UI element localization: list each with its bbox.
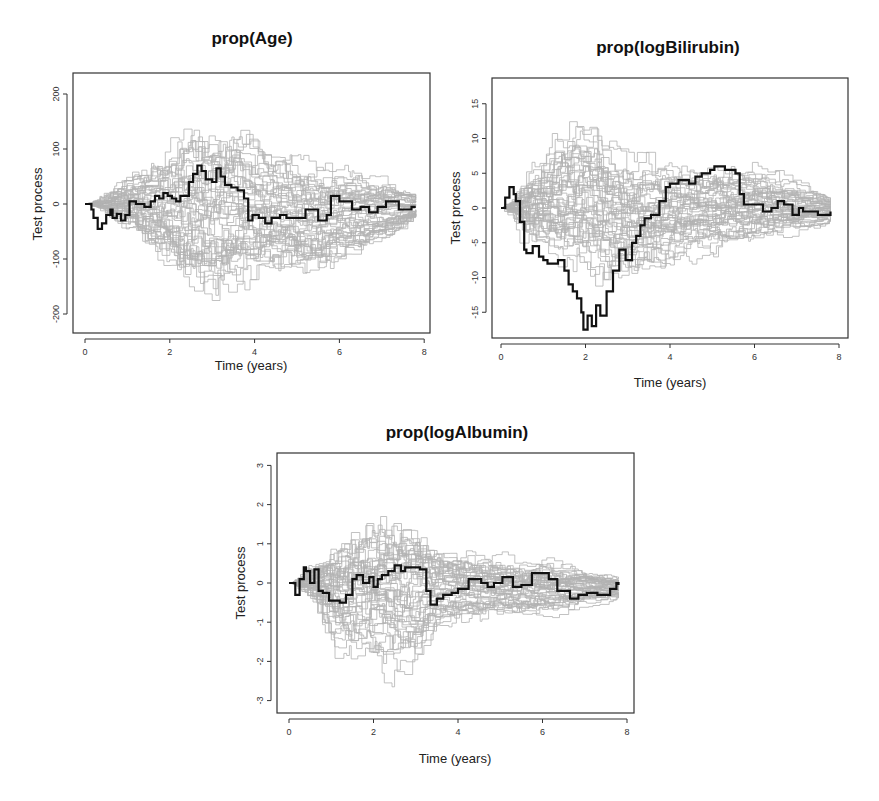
svg-text:6: 6 xyxy=(752,352,757,362)
panel-age: prop(Age) 02468 -200-1000100200 Time (ye… xyxy=(30,29,430,373)
sim-paths xyxy=(85,129,416,300)
x-axis-label: Time (years) xyxy=(215,358,287,373)
svg-text:0: 0 xyxy=(82,347,87,357)
svg-text:0: 0 xyxy=(286,727,291,737)
svg-text:2: 2 xyxy=(167,347,172,357)
svg-text:6: 6 xyxy=(540,727,545,737)
svg-text:-1: -1 xyxy=(255,618,265,626)
y-axis-label: Test process xyxy=(233,546,248,619)
svg-text:-5: -5 xyxy=(470,239,480,247)
svg-text:-2: -2 xyxy=(255,657,265,665)
x-axis: 02468 xyxy=(82,339,426,357)
svg-text:-3: -3 xyxy=(255,697,265,705)
panel-title: prop(Age) xyxy=(211,29,292,48)
svg-text:4: 4 xyxy=(252,347,257,357)
panel-title: prop(logBilirubin) xyxy=(596,38,740,57)
svg-text:-15: -15 xyxy=(470,306,480,319)
svg-text:1: 1 xyxy=(255,541,265,546)
panel-logalbumin: prop(logAlbumin) 02468 -3-2-10123 Time (… xyxy=(233,423,634,766)
svg-text:3: 3 xyxy=(255,463,265,468)
x-axis-label: Time (years) xyxy=(634,375,706,390)
svg-text:0: 0 xyxy=(498,352,503,362)
figure-canvas: prop(Age) 02468 -200-1000100200 Time (ye… xyxy=(0,0,879,801)
y-axis: -3-2-10123 xyxy=(255,463,271,705)
svg-text:200: 200 xyxy=(51,86,61,101)
svg-text:15: 15 xyxy=(470,99,480,109)
svg-text:6: 6 xyxy=(337,347,342,357)
svg-text:8: 8 xyxy=(624,727,629,737)
svg-text:2: 2 xyxy=(371,727,376,737)
y-axis-label: Test process xyxy=(448,171,463,244)
svg-text:0: 0 xyxy=(51,201,61,206)
svg-text:0: 0 xyxy=(470,205,480,210)
svg-text:8: 8 xyxy=(422,347,427,357)
svg-text:-10: -10 xyxy=(470,271,480,284)
svg-text:4: 4 xyxy=(667,352,672,362)
svg-text:10: 10 xyxy=(470,133,480,143)
svg-text:2: 2 xyxy=(255,502,265,507)
y-axis: -200-1000100200 xyxy=(51,86,67,323)
x-axis-label: Time (years) xyxy=(419,751,491,766)
svg-text:4: 4 xyxy=(455,727,460,737)
svg-text:100: 100 xyxy=(51,141,61,156)
y-axis-label: Test process xyxy=(30,167,45,240)
x-axis: 02468 xyxy=(286,719,629,737)
svg-text:5: 5 xyxy=(470,171,480,176)
svg-text:-200: -200 xyxy=(51,305,61,323)
svg-text:8: 8 xyxy=(836,352,841,362)
svg-text:0: 0 xyxy=(255,580,265,585)
sim-paths xyxy=(501,122,831,286)
y-axis: -15-10-5051015 xyxy=(470,99,486,319)
panel-title: prop(logAlbumin) xyxy=(386,423,529,442)
panel-logbilirubin: prop(logBilirubin) 02468 -15-10-5051015 … xyxy=(448,38,848,390)
svg-text:-100: -100 xyxy=(51,250,61,268)
svg-text:2: 2 xyxy=(583,352,588,362)
x-axis: 02468 xyxy=(498,344,841,362)
